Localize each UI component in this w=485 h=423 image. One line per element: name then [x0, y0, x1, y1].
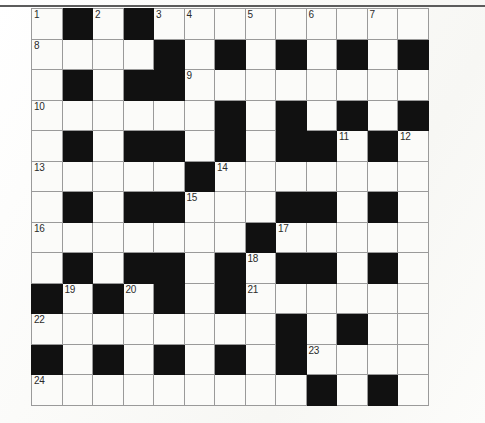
crossword-cell[interactable]: [276, 161, 307, 192]
crossword-cell[interactable]: [93, 314, 124, 345]
crossword-cell[interactable]: [306, 70, 337, 101]
crossword-cell[interactable]: [215, 222, 246, 253]
crossword-cell[interactable]: [398, 70, 429, 101]
crossword-cell[interactable]: [93, 39, 124, 70]
crossword-cell[interactable]: [398, 253, 429, 284]
crossword-cell[interactable]: [306, 222, 337, 253]
crossword-cell[interactable]: [184, 100, 215, 131]
crossword-cell[interactable]: [184, 375, 215, 406]
crossword-cell[interactable]: [184, 344, 215, 375]
crossword-cell[interactable]: [245, 100, 276, 131]
crossword-cell[interactable]: [245, 314, 276, 345]
crossword-cell[interactable]: 7: [367, 9, 398, 40]
crossword-cell[interactable]: [245, 161, 276, 192]
crossword-cell[interactable]: [154, 222, 185, 253]
crossword-cell[interactable]: [276, 375, 307, 406]
crossword-cell[interactable]: [337, 192, 368, 223]
crossword-cell[interactable]: [123, 344, 154, 375]
crossword-cell[interactable]: [306, 39, 337, 70]
crossword-cell[interactable]: [123, 100, 154, 131]
crossword-cell[interactable]: [184, 314, 215, 345]
crossword-cell[interactable]: [398, 283, 429, 314]
crossword-cell[interactable]: [306, 100, 337, 131]
crossword-cell[interactable]: 3: [154, 9, 185, 40]
crossword-cell[interactable]: [32, 192, 63, 223]
crossword-cell[interactable]: [245, 375, 276, 406]
crossword-cell[interactable]: 15: [184, 192, 215, 223]
crossword-cell[interactable]: [398, 375, 429, 406]
crossword-cell[interactable]: [123, 375, 154, 406]
crossword-cell[interactable]: 6: [306, 9, 337, 40]
crossword-cell[interactable]: [123, 222, 154, 253]
crossword-cell[interactable]: 17: [276, 222, 307, 253]
crossword-cell[interactable]: [215, 192, 246, 223]
crossword-cell[interactable]: [123, 161, 154, 192]
crossword-cell[interactable]: [306, 314, 337, 345]
crossword-cell[interactable]: [123, 314, 154, 345]
crossword-cell[interactable]: 16: [32, 222, 63, 253]
crossword-cell[interactable]: [93, 70, 124, 101]
crossword-cell[interactable]: [62, 39, 93, 70]
crossword-cell[interactable]: [367, 344, 398, 375]
crossword-cell[interactable]: [337, 222, 368, 253]
crossword-cell[interactable]: [215, 375, 246, 406]
crossword-cell[interactable]: [337, 283, 368, 314]
crossword-cell[interactable]: [62, 161, 93, 192]
crossword-cell[interactable]: [184, 253, 215, 284]
crossword-cell[interactable]: [32, 70, 63, 101]
crossword-cell[interactable]: [32, 131, 63, 162]
crossword-cell[interactable]: [398, 161, 429, 192]
crossword-cell[interactable]: [367, 39, 398, 70]
crossword-cell[interactable]: [93, 222, 124, 253]
crossword-cell[interactable]: [367, 161, 398, 192]
crossword-cell[interactable]: [306, 161, 337, 192]
crossword-cell[interactable]: [337, 70, 368, 101]
crossword-cell[interactable]: [62, 100, 93, 131]
crossword-cell[interactable]: [62, 222, 93, 253]
crossword-cell[interactable]: 24: [32, 375, 63, 406]
crossword-cell[interactable]: [62, 375, 93, 406]
crossword-cell[interactable]: [337, 253, 368, 284]
crossword-cell[interactable]: [184, 131, 215, 162]
crossword-cell[interactable]: [398, 344, 429, 375]
crossword-cell[interactable]: 10: [32, 100, 63, 131]
crossword-cell[interactable]: 2: [93, 9, 124, 40]
crossword-cell[interactable]: [215, 314, 246, 345]
crossword-cell[interactable]: [184, 39, 215, 70]
crossword-cell[interactable]: [367, 70, 398, 101]
crossword-cell[interactable]: [93, 131, 124, 162]
crossword-cell[interactable]: [245, 131, 276, 162]
crossword-cell[interactable]: [337, 375, 368, 406]
crossword-cell[interactable]: 21: [245, 283, 276, 314]
crossword-cell[interactable]: 13: [32, 161, 63, 192]
crossword-cell[interactable]: [93, 375, 124, 406]
crossword-cell[interactable]: 23: [306, 344, 337, 375]
crossword-cell[interactable]: [276, 70, 307, 101]
crossword-cell[interactable]: [93, 161, 124, 192]
crossword-cell[interactable]: [398, 222, 429, 253]
crossword-cell[interactable]: [154, 314, 185, 345]
crossword-cell[interactable]: [123, 39, 154, 70]
crossword-cell[interactable]: 12: [398, 131, 429, 162]
crossword-cell[interactable]: 18: [245, 253, 276, 284]
crossword-cell[interactable]: [62, 314, 93, 345]
crossword-cell[interactable]: [62, 344, 93, 375]
crossword-cell[interactable]: [215, 70, 246, 101]
crossword-grid[interactable]: 123456789101112131415161718192021222324: [31, 8, 429, 406]
crossword-cell[interactable]: [398, 192, 429, 223]
crossword-cell[interactable]: [398, 9, 429, 40]
crossword-cell[interactable]: [184, 283, 215, 314]
crossword-cell[interactable]: [367, 283, 398, 314]
crossword-cell[interactable]: [93, 253, 124, 284]
crossword-cell[interactable]: [245, 192, 276, 223]
crossword-cell[interactable]: [276, 9, 307, 40]
crossword-cell[interactable]: [245, 344, 276, 375]
crossword-cell[interactable]: 11: [337, 131, 368, 162]
crossword-cell[interactable]: [337, 344, 368, 375]
crossword-cell[interactable]: [154, 161, 185, 192]
crossword-cell[interactable]: [32, 253, 63, 284]
crossword-cell[interactable]: [154, 100, 185, 131]
crossword-cell[interactable]: [367, 222, 398, 253]
crossword-cell[interactable]: 5: [245, 9, 276, 40]
crossword-cell[interactable]: [245, 70, 276, 101]
